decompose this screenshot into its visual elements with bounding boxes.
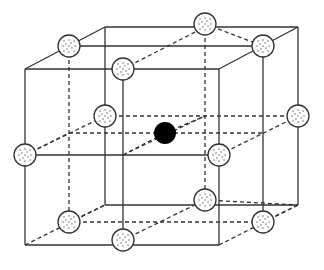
dotted-atom <box>14 144 36 166</box>
dotted-atom <box>194 13 216 35</box>
dotted-atom <box>287 105 309 127</box>
dotted-atom <box>208 144 230 166</box>
dotted-atom <box>252 211 274 233</box>
lattice-edge-dashed <box>219 116 298 155</box>
dotted-atom <box>252 35 274 57</box>
dotted-atom <box>58 211 80 233</box>
lattice-svg <box>0 0 324 270</box>
dotted-atom <box>112 229 134 251</box>
lattice-edge-dashed <box>123 200 205 240</box>
dotted-atom <box>58 35 80 57</box>
dotted-atom <box>194 189 216 211</box>
center-atom <box>154 122 176 144</box>
dotted-atom <box>112 58 134 80</box>
black-center-atom <box>154 122 176 144</box>
crystal-lattice-diagram <box>0 0 324 270</box>
dotted-atom <box>94 105 116 127</box>
lattice-edge-dashed <box>123 27 205 69</box>
